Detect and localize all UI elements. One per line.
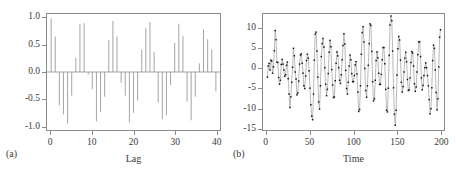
- series-marker: [315, 31, 316, 32]
- x-tick-mark: [92, 131, 93, 135]
- x-tick-mark: [441, 131, 442, 135]
- series-marker: [313, 93, 314, 94]
- series-marker: [354, 75, 355, 76]
- y-tick-label: 10: [218, 23, 256, 33]
- series-marker: [308, 57, 309, 58]
- series-marker: [299, 63, 300, 64]
- series-marker: [330, 46, 331, 47]
- series-marker: [267, 76, 268, 77]
- x-tick-label: 100: [334, 138, 374, 148]
- series-marker: [362, 26, 363, 27]
- y-tick-mark: [42, 99, 46, 100]
- y-tick-label: 1.0: [2, 12, 40, 22]
- y-tick-mark: [258, 68, 262, 69]
- series-marker: [329, 40, 330, 41]
- series-marker: [291, 82, 292, 83]
- series-marker: [293, 48, 294, 49]
- x-tick-mark: [134, 131, 135, 135]
- series-marker: [318, 101, 319, 102]
- series-marker: [367, 85, 368, 86]
- y-tick-label: -1.0: [2, 122, 40, 132]
- series-plot-area: [262, 13, 445, 131]
- series-marker: [390, 15, 391, 16]
- series-marker: [277, 62, 278, 63]
- x-tick-label: 150: [377, 138, 417, 148]
- series-marker: [326, 95, 327, 96]
- series-marker: [363, 41, 364, 42]
- series-marker: [295, 78, 296, 79]
- series-marker: [378, 72, 379, 73]
- series-marker: [435, 92, 436, 93]
- series-marker: [415, 86, 416, 87]
- series-marker: [368, 65, 369, 66]
- series-marker: [440, 29, 441, 30]
- series-marker: [388, 87, 389, 88]
- series-marker: [342, 45, 343, 46]
- series-marker: [388, 55, 389, 56]
- y-tick-mark: [258, 109, 262, 110]
- series-marker: [395, 110, 396, 111]
- series-marker: [432, 60, 433, 61]
- y-tick-mark: [42, 127, 46, 128]
- series-marker: [321, 43, 322, 44]
- series-marker: [439, 37, 440, 38]
- series-marker: [288, 93, 289, 94]
- series-marker: [349, 54, 350, 55]
- series-marker: [400, 59, 401, 60]
- series-marker: [410, 62, 411, 63]
- series-marker: [406, 61, 407, 62]
- figure-container: 1.00.50.0-0.5-1.0 010203040 Lag (a) 1050…: [0, 0, 456, 170]
- series-marker: [413, 65, 414, 66]
- series-marker: [385, 89, 386, 90]
- series-marker: [387, 111, 388, 112]
- series-marker: [314, 59, 315, 60]
- series-marker: [331, 69, 332, 70]
- x-tick-label: 200: [421, 138, 456, 148]
- series-marker: [341, 59, 342, 60]
- series-marker: [429, 113, 430, 114]
- series-marker: [268, 63, 269, 64]
- series-marker: [335, 63, 336, 64]
- series-marker: [297, 92, 298, 93]
- y-tick-label: -15: [218, 124, 256, 134]
- series-marker: [361, 54, 362, 55]
- series-marker: [414, 83, 415, 84]
- series-marker: [272, 72, 273, 73]
- y-tick-mark: [42, 45, 46, 46]
- series-marker: [358, 111, 359, 112]
- series-marker: [398, 36, 399, 37]
- series-marker: [365, 90, 366, 91]
- series-marker: [359, 109, 360, 110]
- series-marker: [394, 113, 395, 114]
- series-marker: [323, 46, 324, 47]
- series-marker: [399, 39, 400, 40]
- series-marker: [371, 51, 372, 52]
- series-marker: [305, 75, 306, 76]
- x-tick-label: 10: [72, 138, 112, 148]
- series-marker: [327, 89, 328, 90]
- series-marker: [360, 85, 361, 86]
- y-tick-label: -0.5: [2, 94, 40, 104]
- series-marker: [350, 59, 351, 60]
- series-marker: [375, 80, 376, 81]
- x-tick-mark: [354, 131, 355, 135]
- series-marker: [325, 83, 326, 84]
- y-tick-mark: [258, 28, 262, 29]
- series-marker: [428, 99, 429, 100]
- series-marker: [393, 87, 394, 88]
- series-marker: [314, 33, 315, 34]
- series-marker: [433, 44, 434, 45]
- series-marker: [426, 67, 427, 68]
- series-marker: [430, 108, 431, 109]
- series-marker: [280, 80, 281, 81]
- series-marker: [343, 33, 344, 34]
- series-marker: [375, 60, 376, 61]
- series-marker: [356, 73, 357, 74]
- series-marker: [392, 50, 393, 51]
- series-marker: [380, 83, 381, 84]
- series-marker: [425, 62, 426, 63]
- series-marker: [417, 54, 418, 55]
- series-marker: [436, 109, 437, 110]
- panel-b-tag: (b): [233, 149, 245, 159]
- series-marker: [283, 69, 284, 70]
